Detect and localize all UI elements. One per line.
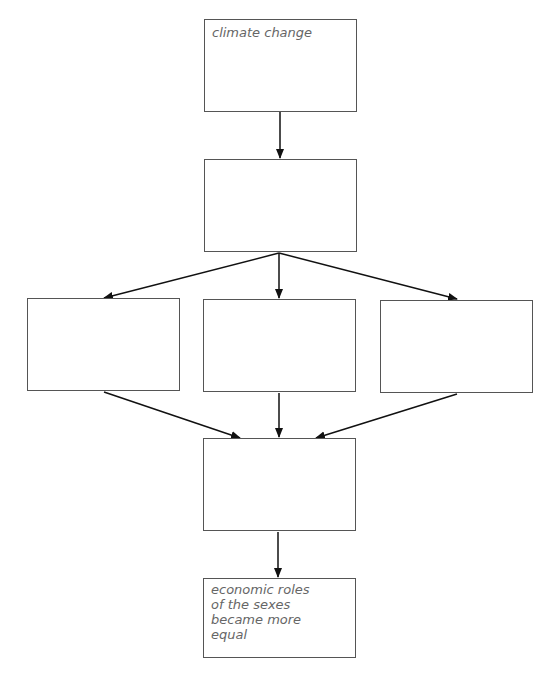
arrow-second-to-left: [104, 253, 279, 298]
node-label-line: equal: [211, 627, 348, 642]
node-left-empty: [27, 298, 180, 391]
node-label-line: economic roles: [211, 582, 348, 597]
node-right-empty: [380, 300, 533, 393]
arrow-left-to-fourth: [104, 392, 240, 438]
arrow-second-to-right: [279, 253, 457, 299]
node-label: climate change: [212, 25, 312, 40]
node-climate-change: climate change: [204, 19, 357, 112]
node-label-line: of the sexes: [211, 597, 348, 612]
node-label-line: became more: [211, 612, 348, 627]
node-second-empty: [204, 159, 357, 252]
node-middle-empty: [203, 299, 356, 392]
node-economic-roles: economic roles of the sexes became more …: [203, 578, 356, 658]
arrow-right-to-fourth: [316, 394, 457, 438]
node-fourth-empty: [203, 438, 356, 531]
